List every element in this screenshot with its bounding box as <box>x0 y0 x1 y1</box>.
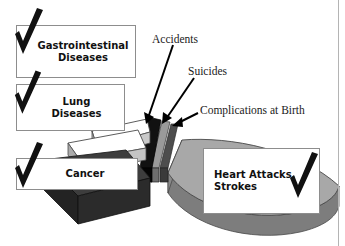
callout-box-lung[interactable]: Lung Diseases <box>16 84 125 131</box>
callout-label-lung: Lung Diseases <box>17 96 124 120</box>
callout-label-heart-attacks-strokes: Heart Attacks, Strokes <box>204 169 295 193</box>
callout-box-gastrointestinal[interactable]: Gastrointestinal Diseases <box>16 25 136 78</box>
callout-box-cancer[interactable]: Cancer <box>16 158 138 190</box>
callout-label-cancer: Cancer <box>17 168 137 180</box>
pie-chart-figure: Gastrointestinal Diseases Lung Diseases … <box>0 0 345 246</box>
callout-box-heart-attacks-strokes[interactable]: Heart Attacks, Strokes <box>203 148 320 214</box>
annotation-suicides: Suicides <box>188 65 227 77</box>
leader-arrow-accidents <box>144 45 173 124</box>
callout-label-gastrointestinal: Gastrointestinal Diseases <box>17 40 135 64</box>
annotation-complications-at-birth: Complications at Birth <box>200 104 305 116</box>
annotation-accidents: Accidents <box>152 33 198 45</box>
page-border-rule <box>338 0 339 246</box>
leader-arrow-complications <box>172 113 198 127</box>
